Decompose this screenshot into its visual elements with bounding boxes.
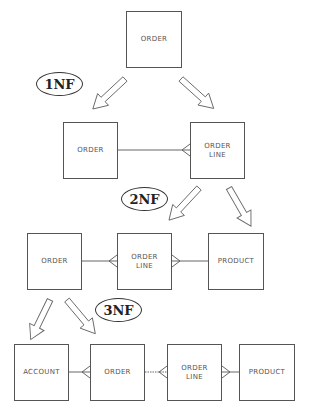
arrow-to-account-3nf (24, 296, 58, 343)
arrow-to-order-3nf (61, 295, 102, 339)
entity-orderline-3nf: ORDER LINE (167, 344, 222, 401)
entity-orderline-1nf: ORDER LINE (190, 122, 245, 179)
entity-order-3nf: ORDER (90, 344, 145, 401)
arrow-to-orderline-1nf (176, 73, 219, 114)
stage-label-1nf: 1NF (36, 72, 83, 96)
stage-label-2nf: 2NF (121, 187, 168, 211)
normalization-diagram: ORDER 1NF ORDER ORDER LINE 2NF ORDER ORD… (0, 0, 309, 417)
entity-product-3nf: PRODUCT (239, 344, 295, 401)
entity-order-2nf: ORDER (27, 233, 82, 290)
entity-product-2nf: PRODUCT (208, 233, 264, 290)
entity-account-3nf: ACCOUNT (14, 344, 69, 401)
arrow-to-order-1nf (87, 73, 130, 115)
entity-order-unnormalized: ORDER (126, 11, 182, 68)
entity-order-1nf: ORDER (63, 122, 118, 179)
arrow-to-orderline-2nf (163, 183, 205, 226)
entity-orderline-2nf: ORDER LINE (117, 233, 172, 290)
arrow-to-product-2nf (222, 184, 258, 230)
stage-label-3nf: 3NF (95, 298, 142, 322)
